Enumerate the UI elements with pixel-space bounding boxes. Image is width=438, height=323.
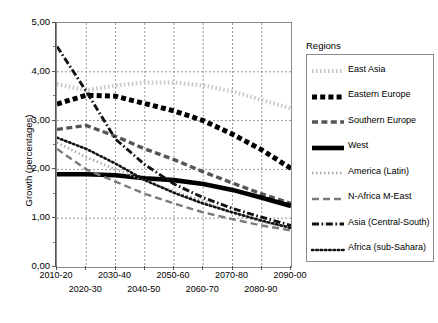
legend-key-swatch <box>311 114 345 126</box>
y-tick-label: 4,00 <box>6 66 50 76</box>
x-axis-tick <box>85 266 86 270</box>
x-axis-tick <box>144 266 145 270</box>
x-tick-label: 2090-00 <box>266 271 314 280</box>
y-tick-label: 1,00 <box>6 212 50 222</box>
legend-item-africa-sub-sahara[interactable]: Africa (sub-Sahara) <box>311 236 426 260</box>
legend-item-southern-europe[interactable]: Southern Europe <box>311 108 416 132</box>
x-tick-label: 2010-20 <box>32 271 80 280</box>
legend-item-eastern-europe[interactable]: Eastern Europe <box>311 83 411 107</box>
legend-key-swatch <box>311 242 345 254</box>
x-tick-label: 2070-80 <box>208 271 256 280</box>
x-axis-tick <box>173 266 174 270</box>
legend-title: Regions <box>306 40 341 51</box>
legend-item-east-asia[interactable]: East Asia <box>311 57 386 81</box>
data-series <box>57 46 291 230</box>
growth-line-chart: Growth (percentages) 5,004,003,002,001,0… <box>0 0 438 323</box>
x-tick-label: 2040-50 <box>120 285 168 294</box>
legend-item-asia-central-south[interactable]: Asia (Central-South) <box>311 210 430 234</box>
legend-key-swatch <box>311 89 345 101</box>
x-tick-label: 2050-60 <box>149 271 197 280</box>
x-axis-tick <box>115 266 116 270</box>
y-tick-label: 3,00 <box>6 115 50 125</box>
y-tick-label: 5,00 <box>6 17 50 27</box>
legend-item-america-latin[interactable]: America (Latin) <box>311 159 409 183</box>
legend-key-swatch <box>311 63 345 75</box>
legend-key-swatch <box>311 216 345 228</box>
legend-key-swatch <box>311 165 345 177</box>
legend-key-swatch <box>311 140 345 152</box>
x-axis-tick <box>290 266 291 270</box>
x-axis-tick <box>56 266 57 270</box>
y-tick-label: 2,00 <box>6 163 50 173</box>
legend-item-label: East Asia <box>348 65 386 74</box>
legend-item-n-africa-m-east[interactable]: N-Africa M-East <box>311 185 412 209</box>
legend-key-swatch <box>311 191 345 203</box>
x-tick-label: 2020-30 <box>61 285 109 294</box>
legend-item-label: America (Latin) <box>348 167 409 176</box>
series-canvas <box>57 23 291 267</box>
x-axis-tick <box>232 266 233 270</box>
x-tick-label: 2080-90 <box>237 285 285 294</box>
legend-box: East AsiaEastern EuropeSouthern EuropeWe… <box>306 54 434 262</box>
legend-item-label: Southern Europe <box>348 116 416 125</box>
legend-item-label: N-Africa M-East <box>348 192 412 201</box>
x-axis-tick <box>261 266 262 270</box>
legend-item-label: West <box>348 141 368 150</box>
legend-item-label: Asia (Central-South) <box>348 218 430 227</box>
x-axis-tick <box>202 266 203 270</box>
legend-item-west[interactable]: West <box>311 134 368 158</box>
x-tick-label: 2060-70 <box>178 285 226 294</box>
x-tick-label: 2030-40 <box>91 271 139 280</box>
legend-item-label: Africa (sub-Sahara) <box>348 243 426 252</box>
plot-area <box>56 22 292 268</box>
legend-item-label: Eastern Europe <box>348 90 411 99</box>
